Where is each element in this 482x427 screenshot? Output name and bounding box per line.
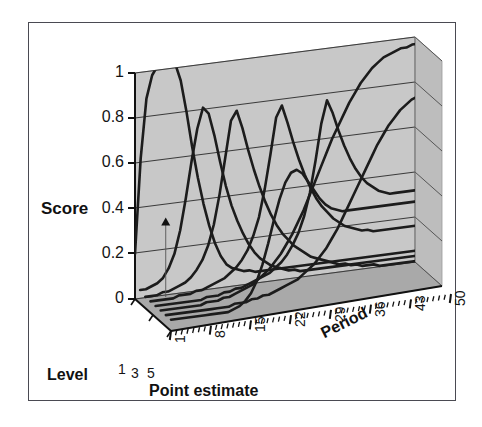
right-side-wall [415,37,442,286]
period-tick-15: 15 [252,317,268,333]
score-tick-0.4: 0.4 [78,199,124,217]
score-tick-0.2: 0.2 [78,244,124,262]
score-tick-1: 1 [78,63,124,81]
period-tick-43: 43 [412,296,428,312]
level-tick-5: 5 [147,365,155,381]
score-axis-ticks [128,73,135,299]
level-axis-label: Level [47,366,88,384]
period-tick-29: 29 [332,306,348,322]
period-tick-1: 1 [172,335,188,343]
score-tick-0: 0 [78,289,124,307]
score-tick-0.8: 0.8 [78,108,124,126]
period-tick-50: 50 [452,290,468,306]
point-estimate-axis-label: Point estimate [149,382,258,400]
chart-figure: Score Period Level Point estimate 00.20.… [0,0,482,427]
score-tick-0.6: 0.6 [78,153,124,171]
period-tick-36: 36 [372,301,388,317]
period-tick-8: 8 [212,330,228,338]
level-tick-1: 1 [118,361,126,377]
level-tick-3: 3 [131,365,139,381]
period-tick-22: 22 [292,312,308,328]
